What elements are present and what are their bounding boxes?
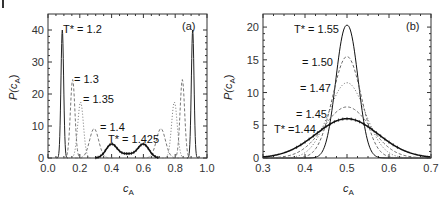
- series-line: [162, 102, 186, 158]
- annotation-t-1-55: T* = 1.55: [294, 23, 339, 35]
- y-tick-label: 10: [32, 120, 44, 132]
- y-tick-label: 30: [32, 56, 44, 68]
- y-tick-label: 40: [32, 24, 44, 36]
- y-axis-label-b: P(cA): [222, 74, 237, 100]
- x-axis-label-b: cA: [343, 182, 355, 197]
- y-tick-label: 20: [32, 88, 44, 100]
- annotation-t-1-50: = 1.50: [302, 56, 333, 68]
- series-line: [263, 25, 430, 158]
- x-axis-label-a: cA: [123, 182, 135, 197]
- y-tick-label: 10: [247, 87, 259, 99]
- panel-a: 0.00.20.40.60.81.0010203040 (a) T* = 1.2…: [7, 14, 215, 197]
- series-line: [63, 80, 82, 158]
- ticks-b: 0.30.40.50.60.705101520: [247, 14, 439, 174]
- x-tick-label: 0.5: [339, 162, 354, 174]
- annotation-t-1-2: T* = 1.2: [63, 23, 102, 35]
- y-tick-label: 15: [247, 54, 259, 66]
- annotation-t-1-45: = 1.45: [296, 108, 327, 120]
- panel-b: 0.30.40.50.60.705101520 (b) T* = 1.55 = …: [222, 14, 439, 197]
- x-tick-label: 0.4: [104, 162, 119, 174]
- annotation-t-1-47: = 1.47: [300, 82, 331, 94]
- series-line: [173, 80, 192, 158]
- annotation-t-1-425: T* = 1.425: [108, 133, 159, 145]
- y-tick-label: 0: [253, 152, 259, 164]
- y-tick-label: 20: [247, 21, 259, 33]
- panel-label-b: (b): [406, 20, 419, 32]
- x-tick-label: 0.2: [72, 162, 87, 174]
- annotation-t-1-44: T* =1.44: [274, 123, 316, 135]
- x-tick-label: 0.6: [136, 162, 151, 174]
- annotation-t-1-4: = 1.4: [100, 121, 125, 133]
- figure: 0.00.20.40.60.81.0010203040 (a) T* = 1.2…: [0, 0, 442, 201]
- panel-label-a: (a): [182, 20, 195, 32]
- x-tick-label: 1.0: [199, 162, 214, 174]
- curves-b: [263, 25, 430, 158]
- series-line: [263, 83, 430, 158]
- x-tick-label: 0.6: [381, 162, 396, 174]
- series-line: [57, 30, 68, 158]
- series-line: [263, 57, 430, 158]
- x-tick-label: 0.8: [168, 162, 183, 174]
- annotation-t-1-3: = 1.3: [74, 73, 99, 85]
- y-tick-label: 5: [253, 119, 259, 131]
- series-line: [69, 102, 92, 158]
- y-axis-label-a: P(cA): [7, 74, 22, 100]
- plot-frame-b: [263, 14, 431, 158]
- annotation-t-1-35: = 1.35: [83, 93, 114, 105]
- x-tick-label: 0.7: [423, 162, 438, 174]
- series-line: [187, 30, 198, 158]
- x-tick-label: 0.4: [297, 162, 312, 174]
- y-tick-label: 0: [38, 152, 44, 164]
